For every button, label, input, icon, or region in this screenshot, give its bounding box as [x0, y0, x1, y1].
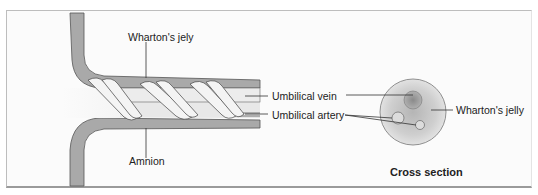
label-whartons-jelly-top: Wharton's jely [128, 31, 194, 43]
label-amnion: Amnion [129, 155, 165, 167]
label-umbilical-artery: Umbilical artery [272, 109, 344, 121]
cross-section-title: Cross section [390, 166, 463, 178]
label-umbilical-vein: Umbilical vein [272, 90, 337, 102]
umbilical-vein-cross [404, 91, 422, 109]
umbilical-artery-cross-2 [416, 121, 425, 130]
label-whartons-jelly-cross: Wharton's jelly [456, 104, 524, 116]
cross-section [380, 79, 446, 145]
